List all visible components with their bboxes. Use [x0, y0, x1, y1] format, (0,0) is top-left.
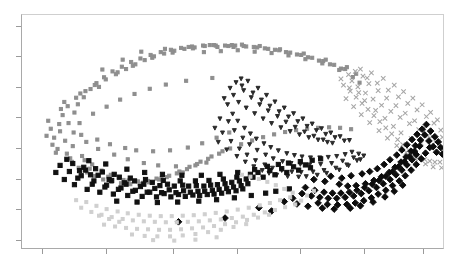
y-axis-tick-5: [16, 87, 21, 88]
y-axis-tick-6: [16, 56, 21, 57]
x-axis-tick-1: [106, 249, 107, 254]
x-axis-tick-0: [42, 249, 43, 254]
y-axis-tick-1: [16, 209, 21, 210]
y-axis-tick-7: [16, 26, 21, 27]
y-axis-tick-3: [16, 148, 21, 149]
scatter-plot-figure: [0, 0, 461, 263]
x-axis-tick-3: [237, 249, 238, 254]
y-axis-tick-4: [16, 117, 21, 118]
x-axis-tick-4: [300, 249, 301, 254]
y-axis-tick-0: [16, 240, 21, 241]
x-axis-tick-6: [423, 249, 424, 254]
axis-ticks-layer: [21, 14, 444, 249]
y-axis-tick-2: [16, 179, 21, 180]
x-axis-tick-5: [364, 249, 365, 254]
x-axis-tick-2: [173, 249, 174, 254]
